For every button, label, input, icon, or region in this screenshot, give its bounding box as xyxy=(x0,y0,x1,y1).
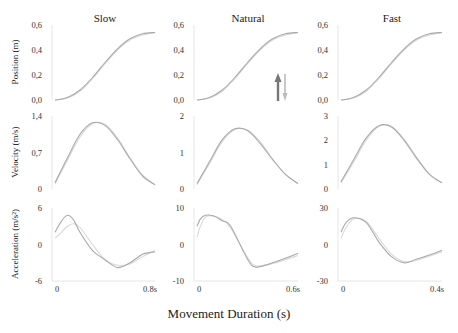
panel-velocity-natural: 012 xyxy=(180,111,298,194)
y-tick-label: 0 xyxy=(324,184,328,194)
series-model xyxy=(197,33,298,101)
panel-position-natural: 0,00,20,40,6 xyxy=(173,20,298,105)
y-label-position: Position (m) xyxy=(10,40,20,85)
row-labels: Position (m) Velocity (m/s) Acceleration… xyxy=(10,40,20,279)
y-tick-label: 0,4 xyxy=(317,45,328,55)
y-tick-label: 0 xyxy=(38,240,42,250)
series-measured xyxy=(341,33,442,101)
x-tick-label: 0 xyxy=(197,284,201,294)
series-measured xyxy=(55,215,155,267)
y-tick-label: 1 xyxy=(324,160,328,170)
y-tick-label: 3 xyxy=(324,111,328,121)
y-label-acceleration: Acceleration (m/s²) xyxy=(10,209,20,279)
direction-arrows xyxy=(275,73,288,101)
y-tick-label: -6 xyxy=(35,276,42,286)
y-tick-label: -10 xyxy=(173,276,184,286)
column-title-natural: Natural xyxy=(232,12,265,24)
series-measured xyxy=(197,215,298,267)
x-tick-label: 0 xyxy=(341,284,345,294)
y-tick-label: 0 xyxy=(38,184,42,194)
panel-acceleration-natural: -10010 xyxy=(173,203,298,286)
y-tick-label: 10 xyxy=(176,203,185,213)
x-tick-label: 0 xyxy=(55,284,59,294)
panel-acceleration-slow: -606 xyxy=(35,203,155,286)
y-tick-label: 0,2 xyxy=(173,70,184,80)
y-tick-label: 1,4 xyxy=(31,111,42,121)
y-tick-label: 6 xyxy=(38,203,42,213)
panel-acceleration-fast: -30030 xyxy=(317,203,442,286)
y-tick-label: 0,6 xyxy=(173,20,184,30)
x-axis-label: Movement Duration (s) xyxy=(168,306,291,321)
y-tick-label: 2 xyxy=(324,135,328,145)
column-titles: Slow Natural Fast xyxy=(94,12,401,24)
y-tick-label: 0,0 xyxy=(31,95,42,105)
y-tick-label: 0,2 xyxy=(31,70,42,80)
y-tick-label: 2 xyxy=(180,111,184,121)
series-measured xyxy=(197,33,298,101)
series-measured xyxy=(341,125,442,183)
column-title-slow: Slow xyxy=(94,12,117,24)
column-title-fast: Fast xyxy=(383,12,401,24)
panel-velocity-fast: 0123 xyxy=(324,111,442,194)
series-measured xyxy=(341,218,442,263)
y-tick-label: 30 xyxy=(320,203,329,213)
arrow-up-icon xyxy=(275,73,282,101)
y-tick-label: 0 xyxy=(180,184,184,194)
series-measured xyxy=(197,128,298,183)
series-model xyxy=(55,33,155,101)
y-tick-label: -30 xyxy=(317,276,328,286)
arrow-down-icon xyxy=(283,74,288,101)
figure: Slow Natural Fast Position (m) Velocity … xyxy=(0,0,458,333)
panels: 0,00,20,40,60,00,20,40,60,00,20,40,600,7… xyxy=(31,20,442,286)
series-measured xyxy=(55,33,155,101)
y-tick-label: 0,7 xyxy=(31,148,42,158)
x-tick-label: 0.6s xyxy=(286,284,300,294)
y-tick-label: 1 xyxy=(180,148,184,158)
panel-position-fast: 0,00,20,40,6 xyxy=(317,20,442,105)
y-tick-label: 0,4 xyxy=(31,45,42,55)
y-label-velocity: Velocity (m/s) xyxy=(10,126,20,177)
series-measured xyxy=(55,122,155,185)
panel-velocity-slow: 00,71,4 xyxy=(31,111,155,194)
y-tick-label: 0,4 xyxy=(173,45,184,55)
series-model xyxy=(341,33,442,101)
x-tick-label: 0.8s xyxy=(143,284,157,294)
x-ticks: 00.8s00.6s00.4s xyxy=(55,284,444,294)
series-model xyxy=(341,125,442,183)
y-tick-label: 0,6 xyxy=(317,20,328,30)
y-tick-label: 0,0 xyxy=(317,95,328,105)
y-tick-label: 0,0 xyxy=(173,95,184,105)
y-tick-label: 0 xyxy=(324,240,328,250)
y-tick-label: 0,2 xyxy=(317,70,328,80)
y-tick-label: 0,6 xyxy=(31,20,42,30)
x-tick-label: 0.4s xyxy=(430,284,444,294)
panel-position-slow: 0,00,20,40,6 xyxy=(31,20,155,105)
y-tick-label: 0 xyxy=(180,240,184,250)
